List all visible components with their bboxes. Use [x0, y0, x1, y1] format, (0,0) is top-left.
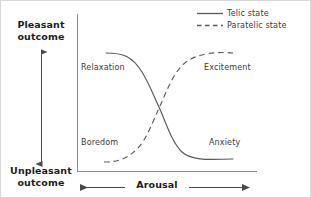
y-axis-top-label-line2: outcome [3, 31, 79, 43]
curve-annotation-relaxation: Relaxation [81, 63, 125, 72]
chart-figure: Pleasant outcome Unpleasant outcome Arou… [0, 0, 311, 198]
legend-item-telic-state: Telic state [227, 9, 269, 18]
x-axis-label: Arousal [129, 179, 185, 191]
y-axis-top-label-line1: Pleasant [3, 19, 79, 31]
legend-item-paratelic-state: Paratelic state [227, 21, 287, 30]
curve-annotation-anxiety: Anxiety [209, 138, 240, 147]
y-axis-bottom-label: Unpleasant outcome [1, 165, 81, 188]
y-axis-bottom-label-line1: Unpleasant [1, 165, 81, 177]
y-axis-top-label: Pleasant outcome [3, 19, 79, 42]
y-axis-bottom-label-line2: outcome [1, 177, 81, 189]
curve-annotation-boredom: Boredom [81, 138, 118, 147]
curve-annotation-excitement: Excitement [204, 63, 251, 72]
